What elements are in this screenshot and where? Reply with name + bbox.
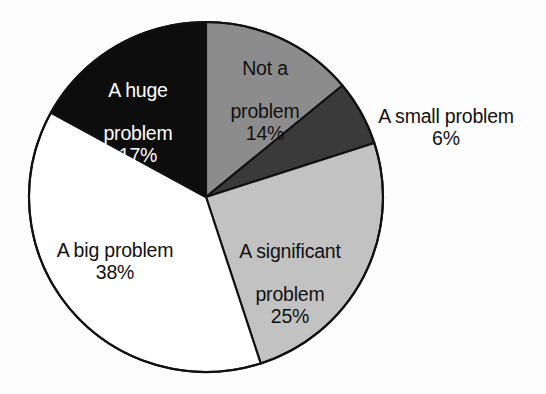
pie-chart-canvas [0, 0, 546, 394]
pie-slices-group [29, 22, 383, 372]
pie-chart-figure: Not a problem 14% A small problem 6% A s… [0, 0, 546, 394]
